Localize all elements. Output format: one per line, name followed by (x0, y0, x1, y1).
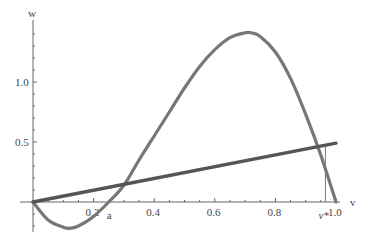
linear-line (33, 143, 336, 202)
y-axis-label: w (28, 7, 36, 19)
x-tick-label: 0.6 (207, 206, 221, 218)
x-axis-label: v (350, 196, 356, 208)
cubic-curve (33, 32, 336, 228)
phase-plane-chart: 0.51.0 0.20.40.60.81.0 w v a v* (0, 0, 373, 241)
y-tick-label: 1.0 (15, 76, 29, 88)
x-axis: 0.20.40.60.81.0 (20, 198, 342, 218)
x-tick-label: 0.4 (146, 206, 160, 218)
annotation-v-star: v* (318, 209, 329, 221)
x-tick-label: 0.8 (267, 206, 281, 218)
x-tick-label: 1.0 (328, 206, 342, 218)
y-tick-label: 0.5 (15, 136, 29, 148)
annotation-a: a (107, 209, 112, 221)
